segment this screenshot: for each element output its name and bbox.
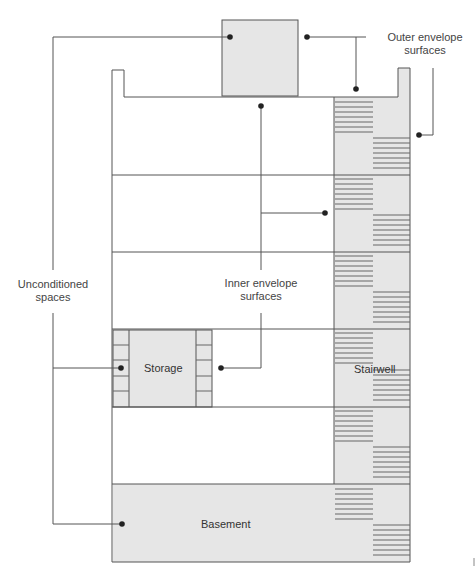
room-label-stairwell: Stairwell xyxy=(354,363,396,375)
room-label-storage: Storage xyxy=(144,362,183,374)
room-label-basement: Basement xyxy=(201,518,251,530)
label-outer-envelope-line1: Outer envelope xyxy=(375,31,475,44)
penthouse-box xyxy=(222,20,298,96)
label-outer-envelope: Outer envelope surfaces xyxy=(375,31,475,57)
label-unconditioned: Unconditioned spaces xyxy=(3,278,103,304)
label-inner-envelope-line1: Inner envelope xyxy=(211,277,311,290)
leader-dots-inner-envelope xyxy=(218,103,328,371)
label-inner-envelope-line2: surfaces xyxy=(211,290,311,303)
label-outer-envelope-line2: surfaces xyxy=(375,44,475,57)
basement-area xyxy=(113,484,410,562)
label-unconditioned-line1: Unconditioned xyxy=(3,278,103,291)
label-inner-envelope: Inner envelope surfaces xyxy=(211,277,311,303)
label-unconditioned-line2: spaces xyxy=(3,291,103,304)
